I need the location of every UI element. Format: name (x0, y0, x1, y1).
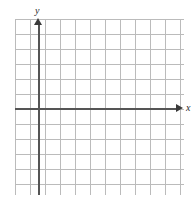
arrow-right-icon (176, 104, 183, 112)
arrow-up-icon (34, 18, 42, 25)
major-gridlines (15, 19, 184, 195)
y-axis-label: y (35, 6, 39, 16)
y-axis (38, 24, 40, 195)
graph-paper-grid (15, 19, 184, 195)
x-axis-label: x (186, 103, 190, 113)
coordinate-plane-figure: x y (0, 0, 194, 203)
